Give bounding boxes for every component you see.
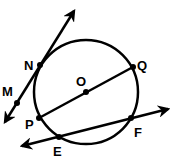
circle-diagram: NMOQPEF — [0, 0, 171, 157]
point-o — [83, 89, 89, 95]
point-n — [37, 62, 43, 68]
label-e: E — [53, 144, 62, 157]
label-q: Q — [137, 58, 147, 73]
point-p — [36, 115, 42, 121]
label-p: P — [25, 117, 34, 132]
label-f: F — [134, 125, 142, 140]
label-n: N — [24, 58, 33, 73]
point-q — [130, 64, 136, 70]
point-e — [56, 134, 62, 140]
point-f — [128, 115, 134, 121]
label-m: M — [2, 84, 13, 99]
label-o: O — [76, 74, 86, 89]
point-m — [14, 100, 20, 106]
